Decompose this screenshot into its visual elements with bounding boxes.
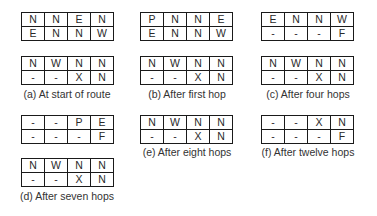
panel-c-caption: (c) After four hops xyxy=(248,88,368,100)
grid-cell: W xyxy=(164,116,187,130)
grid-cell: - xyxy=(285,71,308,85)
grid-cell: N xyxy=(262,57,285,71)
grid-cell: - xyxy=(262,130,285,144)
panel-d-top-grid: - - P E - - - F xyxy=(21,115,114,144)
grid-cell: N xyxy=(331,116,354,130)
grid-row: - - P E xyxy=(22,116,114,130)
grid-cell: X xyxy=(187,130,210,144)
grid-cell: N xyxy=(308,13,331,27)
grid-cell: W xyxy=(45,57,68,71)
grid-row: N W N N xyxy=(22,57,114,71)
grid-cell: - xyxy=(68,130,91,144)
grid-cell: E xyxy=(262,13,285,27)
grid-cell: F xyxy=(331,27,354,41)
grid-cell: X xyxy=(68,173,91,187)
grid-row: - - - F xyxy=(262,130,354,144)
grid-row: - - X N xyxy=(262,71,354,85)
grid-cell: N xyxy=(68,57,91,71)
panel-c-top-grid: E N N W - - - F xyxy=(261,12,354,41)
grid-cell: - xyxy=(285,130,308,144)
grid-cell: N xyxy=(210,57,233,71)
grid-cell: W xyxy=(164,57,187,71)
grid-cell: E xyxy=(91,116,114,130)
grid-cell: - xyxy=(22,71,45,85)
grid-cell: N xyxy=(45,27,68,41)
grid-row: N W N N xyxy=(262,57,354,71)
grid-cell: - xyxy=(285,116,308,130)
grid-cell: - xyxy=(141,71,164,85)
grid-cell: N xyxy=(22,57,45,71)
grid-cell: X xyxy=(308,71,331,85)
grid-row: - - X N xyxy=(22,71,114,85)
grid-cell: P xyxy=(68,116,91,130)
grid-row: - - X N xyxy=(141,71,233,85)
panel-a-bottom-grid: N W N N - - X N xyxy=(21,56,114,85)
grid-cell: N xyxy=(68,159,91,173)
grid-cell: F xyxy=(331,130,354,144)
grid-cell: N xyxy=(91,13,114,27)
grid-row: N W N N xyxy=(22,159,114,173)
grid-cell: X xyxy=(308,116,331,130)
panel-d-bottom-grid: N W N N - - X N xyxy=(21,158,114,187)
grid-cell: - xyxy=(45,130,68,144)
grid-row: N N E N xyxy=(22,13,114,27)
grid-row: N W N N xyxy=(141,57,233,71)
grid-cell: N xyxy=(187,13,210,27)
panel-e-caption: (e) After eight hops xyxy=(127,146,247,158)
grid-cell: N xyxy=(210,71,233,85)
grid-row: - - X N xyxy=(22,173,114,187)
grid-cell: W xyxy=(91,27,114,41)
grid-row: E N N W xyxy=(141,27,233,41)
grid-row: P N N E xyxy=(141,13,233,27)
grid-cell: - xyxy=(22,173,45,187)
grid-cell: - xyxy=(308,130,331,144)
panel-b-caption: (b) After first hop xyxy=(127,88,247,100)
panel-a-top-grid: N N E N E N N W xyxy=(21,12,114,41)
grid-cell: P xyxy=(141,13,164,27)
grid-cell: - xyxy=(285,27,308,41)
panel-b-top-grid: P N N E E N N W xyxy=(140,12,233,41)
grid-cell: - xyxy=(45,173,68,187)
grid-cell: - xyxy=(45,71,68,85)
panel-e-grid: N W N N - - X N xyxy=(140,115,233,144)
grid-cell: N xyxy=(164,13,187,27)
grid-cell: N xyxy=(308,57,331,71)
grid-cell: N xyxy=(141,57,164,71)
grid-cell: - xyxy=(22,116,45,130)
grid-cell: N xyxy=(210,130,233,144)
grid-cell: - xyxy=(308,27,331,41)
grid-cell: W xyxy=(210,27,233,41)
panel-c-bottom-grid: N W N N - - X N xyxy=(261,56,354,85)
grid-row: - - - F xyxy=(22,130,114,144)
grid-cell: N xyxy=(22,159,45,173)
grid-cell: X xyxy=(68,71,91,85)
grid-cell: E xyxy=(68,13,91,27)
panel-f-caption: (f) After twelve hops xyxy=(248,146,368,158)
panel-d-caption: (d) After seven hops xyxy=(7,190,127,202)
grid-cell: N xyxy=(331,71,354,85)
panel-f-grid: - - X N - - - F xyxy=(261,115,354,144)
grid-cell: E xyxy=(22,27,45,41)
grid-cell: X xyxy=(187,71,210,85)
grid-cell: - xyxy=(164,71,187,85)
grid-cell: - xyxy=(22,130,45,144)
grid-cell: W xyxy=(285,57,308,71)
grid-cell: N xyxy=(187,57,210,71)
grid-cell: W xyxy=(331,13,354,27)
grid-cell: N xyxy=(164,27,187,41)
grid-cell: E xyxy=(141,27,164,41)
grid-cell: N xyxy=(45,13,68,27)
grid-cell: N xyxy=(91,71,114,85)
grid-row: E N N W xyxy=(22,27,114,41)
grid-cell: N xyxy=(187,27,210,41)
grid-cell: - xyxy=(45,116,68,130)
grid-cell: N xyxy=(210,116,233,130)
panel-a-caption: (a) At start of route xyxy=(7,88,127,100)
grid-cell: - xyxy=(262,71,285,85)
grid-cell: E xyxy=(210,13,233,27)
grid-row: - - X N xyxy=(262,116,354,130)
grid-cell: N xyxy=(91,57,114,71)
grid-cell: F xyxy=(91,130,114,144)
grid-cell: N xyxy=(331,57,354,71)
grid-cell: - xyxy=(262,116,285,130)
